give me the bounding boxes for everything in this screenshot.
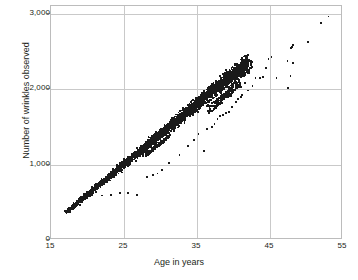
x-tick-label: 15: [45, 242, 54, 250]
x-tick-label: 55: [337, 242, 346, 250]
y-tick-mark: [46, 239, 50, 240]
data-points-layer: [51, 6, 342, 239]
y-axis-title: Number of wrinkles observed: [22, 11, 31, 191]
y-tick-mark: [46, 13, 50, 14]
x-tick-label: 25: [118, 242, 127, 250]
y-tick-mark: [46, 88, 50, 89]
y-tick-mark: [46, 164, 50, 165]
scatter-points: [64, 16, 329, 215]
x-axis-title: Age in years: [0, 258, 358, 267]
x-tick-label: 45: [264, 242, 273, 250]
plot-area: [50, 5, 342, 239]
scatter-plot-figure: 3,0002,0001,0000 1525354555 Number of wr…: [0, 0, 358, 280]
x-tick-label: 35: [191, 242, 200, 250]
